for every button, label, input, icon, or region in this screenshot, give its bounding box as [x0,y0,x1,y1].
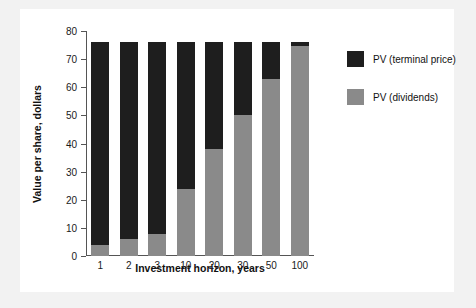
legend-item: PV (terminal price) [347,51,457,67]
bar-segment-terminal-price [262,42,280,79]
bar-segment-dividends [91,245,109,256]
y-tick-label: 80 [66,26,77,37]
bar-segment-dividends [205,149,223,256]
bar-group [205,42,223,256]
bar-group [262,42,280,256]
y-tick-label: 10 [66,222,77,233]
bar-group [148,42,166,256]
chart-legend: PV (terminal price)PV (dividends) [347,51,457,127]
bar-group [177,42,195,256]
legend-label: PV (terminal price) [373,54,456,65]
y-axis-title: Value per share, dollars [30,31,44,256]
bar-group [120,42,138,256]
legend-item: PV (dividends) [347,89,457,105]
y-tick-label: 20 [66,194,77,205]
y-tick-label: 40 [66,138,77,149]
y-tick-label: 70 [66,54,77,65]
bar-series-container [86,31,314,256]
plot-area: 01020304050607080 12310203050100 [86,31,314,256]
legend-swatch [347,51,364,67]
x-axis-title: Investment horizon, years [86,262,314,274]
bar-segment-dividends [291,46,309,256]
bar-segment-terminal-price [205,42,223,149]
y-tick-label: 50 [66,110,77,121]
bar-segment-dividends [234,115,252,256]
bar-segment-terminal-price [291,42,309,46]
bar-group [234,42,252,256]
y-tick-label: 0 [71,251,77,262]
bar-segment-dividends [148,234,166,257]
bar-segment-terminal-price [91,42,109,245]
bar-segment-dividends [177,189,195,257]
bar-segment-terminal-price [120,42,138,239]
y-tick-mark [81,256,86,257]
bar-group [91,42,109,256]
bar-segment-dividends [262,79,280,256]
bar-segment-terminal-price [177,42,195,188]
bar-segment-terminal-price [148,42,166,233]
y-tick-label: 30 [66,166,77,177]
legend-swatch [347,89,364,105]
bar-group [291,42,309,256]
bar-segment-dividends [120,239,138,256]
y-tick-label: 60 [66,82,77,93]
chart-figure: Value per share, dollars 010203040506070… [20,9,454,292]
legend-label: PV (dividends) [373,92,438,103]
bar-segment-terminal-price [234,42,252,115]
